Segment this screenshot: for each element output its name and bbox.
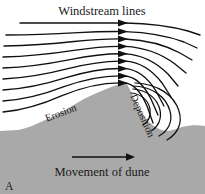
- flow-arrowhead-7: [118, 65, 128, 72]
- streamline-1: [20, 23, 200, 35]
- flow-arrowhead-3: [118, 36, 128, 43]
- flow-arrowhead-1: [118, 20, 128, 27]
- figure-title: Windstream lines: [58, 4, 145, 18]
- streamline-4: [3, 46, 186, 73]
- flow-arrowhead-group: [118, 20, 128, 87]
- dune-windstream-figure: Windstream lines Erosion Deposition Move…: [0, 0, 205, 194]
- flow-arrowhead-4: [118, 43, 128, 50]
- panel-label: A: [5, 180, 14, 192]
- flow-arrowhead-2: [118, 28, 128, 35]
- flow-arrowhead-6: [118, 58, 128, 65]
- figure-caption: Movement of dune: [54, 165, 150, 179]
- flow-arrowhead-8: [118, 73, 128, 80]
- dune-diagram-canvas: Windstream lines Erosion Deposition Move…: [0, 0, 205, 194]
- streamline-5: [3, 54, 178, 86]
- flow-arrowhead-5: [118, 50, 128, 57]
